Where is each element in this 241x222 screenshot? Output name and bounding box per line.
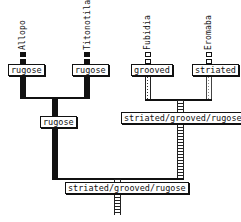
branch-titonotila [84,76,90,99]
branch-left-clade [52,97,58,180]
state-box-titonotila: rugose [72,64,109,76]
taxon-label-allopo: Allopo [18,20,27,50]
taxon-label-titonotila: Titonotila [83,0,92,50]
state-box-allopo: rugose [8,64,45,76]
branch-allopo [20,76,26,99]
tip-marker-titonotila [84,52,90,57]
state-box-left-clade: rugose [40,116,77,128]
taxon-label-fubidia: Fubidia [143,15,152,50]
taxon-label-eromaba: Eromaba [204,15,213,50]
branch-eromaba [206,76,212,100]
tip-marker-eromaba [206,52,212,57]
state-box-root: striated/grooved/rugose [65,182,189,194]
state-box-fubidia: grooved [131,64,173,76]
tip-marker-allopo [20,52,26,57]
character-tree-diagram: Allopo rugose Titonotila rugose rugose F… [0,0,241,222]
tip-marker-fubidia [145,52,151,57]
branch-fubidia [145,76,151,100]
state-box-eromaba: striated [192,64,239,76]
state-box-right-clade: striated/grooved/rugose [121,112,241,124]
